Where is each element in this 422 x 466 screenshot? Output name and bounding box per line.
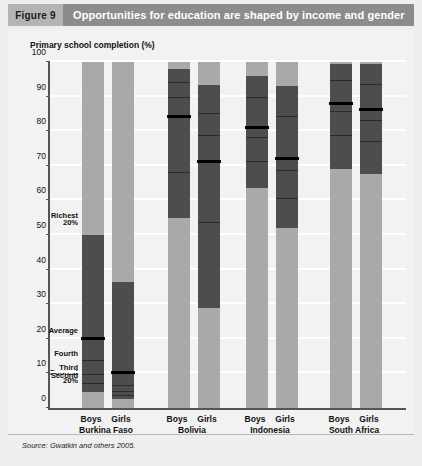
bar-indonesia-girls: [276, 62, 298, 408]
bar-burkina-faso-boys: [82, 62, 104, 408]
y-tick-mark: [46, 269, 50, 270]
quintile-divider-line: [330, 111, 352, 112]
y-axis-label: Primary school completion (%): [30, 40, 155, 50]
quintile-range-segment: [112, 282, 134, 400]
quintile-divider-line: [168, 82, 190, 83]
average-line: [329, 102, 353, 105]
y-tick-mark: [46, 407, 50, 408]
quintile-divider-line: [360, 84, 382, 85]
average-line: [245, 126, 269, 129]
quintile-divider-line: [276, 116, 298, 117]
quintile-divider-line: [198, 222, 220, 223]
x-axis-label-south-africa-boys: Boys: [329, 414, 350, 424]
annotation-second: Second: [51, 372, 78, 380]
quintile-divider-line: [82, 374, 104, 375]
quintile-range-segment: [246, 76, 268, 188]
figure-number: Figure 9: [8, 4, 63, 26]
figure-header: Figure 9 Opportunities for education are…: [8, 4, 414, 26]
annotation-average: Average: [49, 327, 78, 335]
bar-south-africa-girls: [360, 62, 382, 408]
quintile-divider-line: [360, 120, 382, 121]
x-axis-label-bolivia-girls: Girls: [197, 414, 216, 424]
bar-indonesia-boys: [246, 62, 268, 408]
y-axis-tick-70: 70: [37, 151, 46, 161]
quintile-divider-line: [112, 391, 134, 392]
x-axis-label-bolivia-boys: Boys: [167, 414, 188, 424]
quintile-divider-line: [198, 113, 220, 114]
annotation-richest: Richest20%: [51, 212, 78, 227]
x-axis-label-burkina-faso-girls: Girls: [111, 414, 130, 424]
annotation-third: Third: [59, 364, 78, 372]
quintile-divider-line: [246, 161, 268, 162]
quintile-divider-line: [330, 135, 352, 136]
y-tick-mark: [46, 199, 50, 200]
source-bar: Source: Gwatkin and others 2005.: [8, 436, 414, 458]
quintile-range-segment: [198, 85, 220, 308]
quintile-divider-line: [168, 172, 190, 173]
quintile-divider-line: [276, 170, 298, 171]
y-tick-mark: [46, 130, 50, 131]
y-axis-tick-50: 50: [37, 220, 46, 230]
bar-south-africa-boys: [330, 62, 352, 408]
quintile-divider-line: [112, 385, 134, 386]
average-line: [167, 115, 191, 118]
quintile-divider-line: [360, 141, 382, 142]
average-line: [359, 108, 383, 111]
quintile-divider-line: [246, 97, 268, 98]
bar-bolivia-girls: [198, 62, 220, 408]
y-tick-mark: [46, 338, 50, 339]
x-axis-label-south-africa-girls: Girls: [359, 414, 378, 424]
quintile-divider-line: [82, 383, 104, 384]
quintile-divider-line: [198, 135, 220, 136]
y-axis-tick-0: 0: [41, 393, 46, 403]
quintile-divider-line: [276, 198, 298, 199]
quintile-divider-line: [246, 137, 268, 138]
quintile-divider-line: [330, 80, 352, 81]
quintile-divider-line: [168, 97, 190, 98]
quintile-divider-line: [82, 360, 104, 361]
plot-area: Richest20%AverageFourthThirdSecondPoores…: [48, 62, 406, 410]
source-note: Source: Gwatkin and others 2005.: [22, 441, 135, 450]
y-axis-tick-20: 20: [37, 324, 46, 334]
average-line: [275, 157, 299, 160]
x-axis-label-indonesia-boys: Boys: [245, 414, 266, 424]
x-axis-label-burkina-faso-boys: Boys: [81, 414, 102, 424]
y-axis-tick-60: 60: [37, 185, 46, 195]
average-line: [197, 160, 221, 163]
bar-bolivia-boys: [168, 62, 190, 408]
average-line: [111, 371, 135, 374]
y-tick-mark: [46, 96, 50, 97]
y-tick-mark: [46, 303, 50, 304]
average-line: [81, 337, 105, 340]
y-axis-tick-90: 90: [37, 82, 46, 92]
quintile-divider-line: [112, 395, 134, 396]
y-tick-mark: [46, 372, 50, 373]
y-axis-tick-10: 10: [37, 358, 46, 368]
y-tick-mark: [46, 234, 50, 235]
figure-title: Opportunities for education are shaped b…: [63, 4, 414, 26]
annotation-fourth: Fourth: [54, 350, 78, 358]
quintile-range-segment: [168, 69, 190, 218]
x-axis-label-indonesia-girls: Girls: [275, 414, 294, 424]
y-axis-tick-40: 40: [37, 255, 46, 265]
quintile-range-segment: [82, 235, 104, 392]
panel-divider: [8, 434, 414, 435]
y-axis-tick-30: 30: [37, 289, 46, 299]
y-axis-tick-100: 100: [32, 47, 46, 57]
chart-panel: Primary school completion (%) Richest20%…: [8, 30, 414, 434]
figure-page: Figure 9 Opportunities for education are…: [0, 0, 422, 466]
y-tick-mark: [46, 165, 50, 166]
y-axis-tick-80: 80: [37, 116, 46, 126]
bar-burkina-faso-girls: [112, 62, 134, 408]
y-tick-mark: [46, 61, 50, 62]
